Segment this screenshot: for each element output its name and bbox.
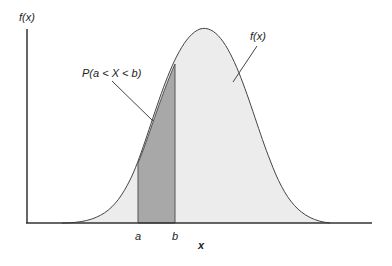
- pdf-diagram: f(x) P(a < X < b) f(x) a b x: [0, 0, 392, 266]
- y-axis-label: f(x): [19, 11, 35, 23]
- area-label: P(a < X < b): [82, 67, 142, 79]
- area-leader-line: [112, 81, 153, 121]
- tick-b-label: b: [172, 230, 178, 242]
- probability-area: [138, 64, 175, 223]
- curve-label: f(x): [250, 30, 266, 42]
- curve-leader-line: [233, 46, 257, 82]
- x-axis-label: x: [197, 239, 205, 251]
- density-curve-fill: [62, 28, 330, 223]
- tick-a-label: a: [135, 230, 141, 242]
